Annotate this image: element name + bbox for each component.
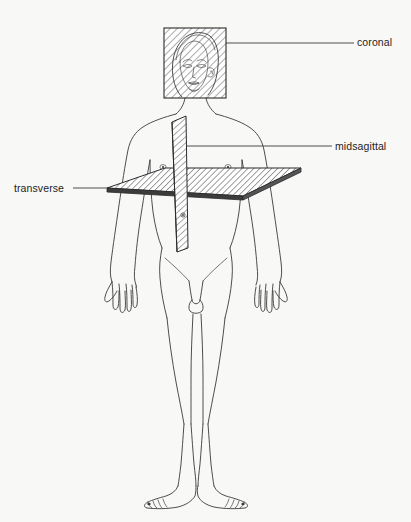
label-midsagittal: midsagittal [335, 140, 386, 152]
anatomical-planes-diagram: coronal midsagittal transverse [0, 0, 411, 522]
toenail-right [241, 503, 244, 506]
navel-dot [182, 214, 184, 216]
label-coronal: coronal [357, 36, 392, 48]
hand-left-edge [136, 285, 137, 287]
label-transverse: transverse [14, 182, 64, 194]
coronal-plane [164, 28, 226, 98]
toenail-left [147, 503, 150, 506]
coronal-plane-rect [164, 28, 226, 98]
diagram-canvas: coronal midsagittal transverse [0, 0, 411, 522]
